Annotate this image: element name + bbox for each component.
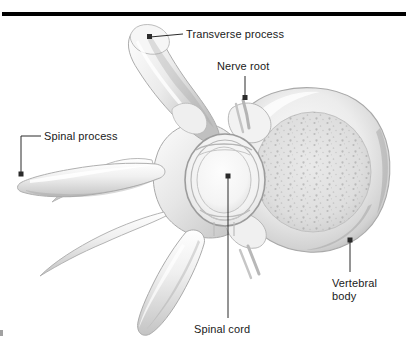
inferior-process-shape xyxy=(138,230,205,335)
leader-nerve-root xyxy=(243,76,247,100)
transverse-process-shape xyxy=(128,25,219,144)
edge-artifact xyxy=(0,330,3,336)
label-spinal-cord: Spinal cord xyxy=(194,323,250,336)
label-transverse-process: Transverse process xyxy=(186,28,284,41)
label-vertebral-body-line2: body xyxy=(332,290,356,302)
spinous-process-shape xyxy=(18,163,165,197)
spinal-cord-shape xyxy=(197,147,251,213)
label-vertebral-body-line1: Vertebral xyxy=(332,277,377,289)
label-vertebral-body: Vertebralbody xyxy=(332,277,377,303)
label-spinal-process: Spinal process xyxy=(44,130,118,143)
leader-spinal-process xyxy=(19,136,41,176)
label-nerve-root: Nerve root xyxy=(217,60,269,73)
horizontal-rule xyxy=(2,12,406,16)
vertebra-illustration xyxy=(0,0,412,359)
figure-canvas: Transverse process Nerve root Spinal pro… xyxy=(0,0,412,359)
